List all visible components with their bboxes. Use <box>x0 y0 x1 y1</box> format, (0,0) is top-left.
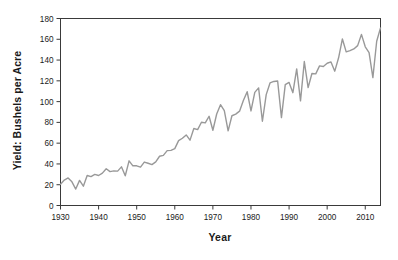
y-tick-label: 40 <box>44 160 54 169</box>
x-tick-label: 2000 <box>318 213 337 222</box>
x-tick-label: 1950 <box>128 213 147 222</box>
x-axis-title: Year <box>60 231 380 243</box>
y-tick-label: 100 <box>40 98 54 107</box>
x-tick-label: 1990 <box>280 213 299 222</box>
x-tick-label: 1970 <box>204 213 223 222</box>
chart-figure: Yield: Bushels per Acre 0204060801001201… <box>0 0 398 260</box>
y-tick-label: 180 <box>40 15 54 24</box>
y-axis-ticks: 020406080100120140160180 <box>40 15 61 211</box>
plot-frame <box>61 19 381 206</box>
line-chart-plot: 020406080100120140160180 193019401950196… <box>0 0 398 260</box>
y-tick-label: 160 <box>40 35 54 44</box>
y-tick-label: 80 <box>44 118 54 127</box>
x-axis-ticks: 193019401950196019701980199020002010 <box>51 206 374 222</box>
x-tick-label: 1980 <box>242 213 261 222</box>
x-tick-label: 1930 <box>51 213 70 222</box>
x-tick-label: 1960 <box>166 213 185 222</box>
y-tick-label: 140 <box>40 56 54 65</box>
y-tick-label: 20 <box>44 181 54 190</box>
y-tick-label: 120 <box>40 77 54 86</box>
y-tick-label: 60 <box>44 139 54 148</box>
y-tick-label: 0 <box>49 202 54 211</box>
x-tick-label: 2010 <box>356 213 375 222</box>
x-tick-label: 1940 <box>89 213 108 222</box>
